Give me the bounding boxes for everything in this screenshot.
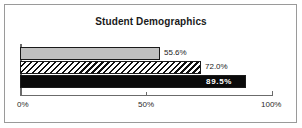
x-axis-end-cap — [272, 91, 273, 96]
plot-area: 55.6% 72.0% 89.5% — [20, 44, 272, 96]
x-tick-label-100: 100% — [261, 100, 281, 109]
chart-figure: Student Demographics 55.6% 72.0% 89.5% 0… — [0, 0, 302, 128]
bar-series-2 — [20, 61, 201, 74]
bar-label-series-2: 72.0% — [205, 63, 228, 71]
x-tick-label-0: 0% — [17, 100, 29, 109]
x-tick-label-50: 50% — [138, 100, 154, 109]
bar-label-series-3: 89.5% — [206, 78, 232, 86]
chart-title: Student Demographics — [0, 16, 302, 27]
bar-label-series-1: 55.6% — [164, 49, 187, 57]
bar-series-1 — [20, 47, 160, 60]
